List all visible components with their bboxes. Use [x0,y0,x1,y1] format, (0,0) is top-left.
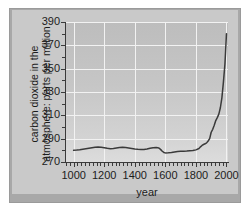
x-tick-minor [158,163,159,166]
y-tick-major [61,45,65,46]
y-tick-minor [62,34,65,35]
x-tick-minor [123,163,124,166]
data-series-line [66,22,228,162]
series-polyline-atmospheric-co2 [74,34,227,153]
figure: 270290310330350370390 100012001400160018… [0,0,252,214]
x-tick-minor [70,163,71,166]
x-tick-minor [204,163,205,166]
x-tick-minor [77,163,78,166]
x-tick-minor [184,163,185,166]
x-tick-minor [173,163,174,166]
y-axis-title-line2: atmosphere: parts per million [40,2,52,186]
y-tick-minor [62,80,65,81]
y-tick-major [61,162,65,163]
y-axis-title-line1: carbon dioxide in the [28,2,40,186]
x-tick-minor [211,163,212,166]
x-tick-minor [97,163,98,166]
x-tick-minor [81,163,82,166]
x-tick-minor [223,163,224,166]
x-tick-minor [85,163,86,166]
x-tick-major [74,163,75,167]
x-tick-minor [93,163,94,166]
y-tick-minor [62,104,65,105]
x-tick-minor [215,163,216,166]
x-tick-minor [207,163,208,166]
y-tick-minor [62,57,65,58]
x-tick-minor [116,163,117,166]
x-tick-minor [154,163,155,166]
y-tick-major [61,69,65,70]
x-tick-minor [66,163,67,166]
y-tick-major [61,139,65,140]
x-tick-minor [192,163,193,166]
x-tick-minor [142,163,143,166]
x-tick-minor [108,163,109,166]
x-tick-major [196,163,197,167]
x-tick-major [104,163,105,167]
x-tick-minor [181,163,182,166]
x-tick-minor [131,163,132,166]
x-tick-minor [112,163,113,166]
y-tick-minor [62,150,65,151]
y-tick-minor [62,127,65,128]
x-tick-minor [219,163,220,166]
y-tick-major [61,92,65,93]
x-tick-minor [162,163,163,166]
x-tick-minor [127,163,128,166]
x-tick-major [165,163,166,167]
x-tick-minor [119,163,120,166]
y-tick-major [61,115,65,116]
x-tick-minor [200,163,201,166]
x-tick-label: 2000 [206,169,246,181]
x-tick-major [135,163,136,167]
plot-area [66,22,228,162]
y-axis-title: carbon dioxide in the atmosphere: parts … [28,2,54,186]
x-tick-minor [150,163,151,166]
x-tick-minor [89,163,90,166]
y-axis-spine [65,22,66,163]
x-tick-minor [139,163,140,166]
x-tick-minor [100,163,101,166]
y-tick-major [61,22,65,23]
x-tick-minor [169,163,170,166]
x-tick-minor [177,163,178,166]
x-axis-title: year [66,186,228,198]
x-tick-major [226,163,227,167]
x-tick-minor [188,163,189,166]
x-tick-minor [146,163,147,166]
